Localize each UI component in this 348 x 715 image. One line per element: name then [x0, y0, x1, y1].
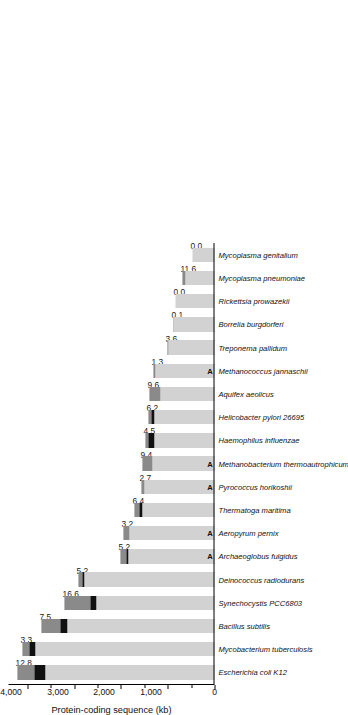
bar-segment-dark-grey	[78, 572, 82, 586]
bar[interactable]	[148, 410, 214, 424]
category-label: Mycoplasma genitalium	[218, 250, 297, 259]
category-label: Treponema pallidum	[218, 343, 287, 352]
axis-tick	[167, 685, 168, 689]
bar-segment-light-grey	[35, 642, 214, 656]
bar-segment-dark-grey	[142, 456, 151, 470]
bar-cell: 9.6	[8, 382, 214, 405]
bar[interactable]	[123, 526, 214, 540]
bar[interactable]	[145, 433, 214, 447]
bar-segment-dark-grey	[149, 387, 159, 401]
bar-segment-dark-grey	[123, 526, 130, 540]
axis-minor-tick	[144, 685, 145, 688]
bar-segment-light-grey	[144, 480, 214, 494]
axis-tick-label: 4,000	[0, 687, 21, 697]
bar[interactable]	[22, 642, 214, 656]
bar-segment-light-grey	[128, 549, 214, 563]
bar-cell: 3.3	[8, 638, 214, 661]
bar[interactable]	[64, 596, 214, 610]
bar-segment-dark-grey	[182, 271, 185, 285]
category-label: Haemophilus influenzae	[218, 436, 299, 445]
bar-cell: 2.7	[8, 475, 214, 498]
bar[interactable]	[167, 340, 214, 354]
bar-segment-light-grey	[192, 248, 214, 262]
axis-minor-tick	[191, 685, 192, 688]
bar-segment-light-grey	[84, 572, 214, 586]
bar-segment-light-grey	[185, 271, 214, 285]
bar-cell: 3.6	[8, 336, 214, 359]
bar-cell: 3.2	[8, 522, 214, 545]
bar-segment-light-grey	[129, 526, 214, 540]
bar-cell: 9.4	[8, 452, 214, 475]
category-label: Methanococcus jannaschii	[218, 366, 307, 375]
category-label: Deinococcus radiodurans	[218, 575, 304, 584]
archaea-marker: A	[207, 366, 212, 375]
axis-tick	[120, 685, 121, 689]
bar-segment-light-grey	[142, 503, 214, 517]
bar-segment-black	[90, 596, 96, 610]
axis-tick-label: 1,000	[140, 687, 162, 697]
bar[interactable]	[173, 317, 214, 331]
bar[interactable]	[78, 572, 214, 586]
bar-segment-black	[60, 619, 67, 633]
bar-segment-black	[148, 433, 154, 447]
bar-segment-dark-grey	[22, 642, 29, 656]
bar[interactable]	[141, 480, 214, 494]
bar-cell: 0.0	[8, 290, 214, 313]
bar-cell: 4.5	[8, 429, 214, 452]
bar-segment-light-grey	[168, 340, 214, 354]
bar[interactable]	[142, 456, 214, 470]
rotated-chart-canvas: 12.83.37.516.65.25.23.26.42.79.44.56.29.…	[0, 0, 277, 714]
archaea-marker: A	[207, 529, 212, 538]
bar-segment-dark-grey	[145, 433, 148, 447]
bar[interactable]	[175, 294, 214, 308]
bar-cell: 6.2	[8, 406, 214, 429]
bar[interactable]	[192, 248, 214, 262]
bar-segment-black	[29, 642, 35, 656]
bar[interactable]	[182, 271, 214, 285]
bar-segment-light-grey	[67, 619, 214, 633]
bar[interactable]	[134, 503, 214, 517]
category-label: Mycoplasma pneumoniae	[218, 273, 305, 282]
bar-cell: 6.4	[8, 498, 214, 521]
bar-cell: 7.5	[8, 614, 214, 637]
category-label: Mycobacterium tuberculosis	[218, 645, 312, 654]
bar-segment-light-grey	[45, 665, 214, 679]
bar[interactable]	[149, 387, 214, 401]
category-label: Pyrococcus horikoshii	[218, 482, 291, 491]
category-label: Borrelia burgdorferi	[218, 320, 283, 329]
archaea-marker: A	[207, 482, 212, 491]
bar-segment-light-grey	[175, 294, 214, 308]
bar-segment-light-grey	[160, 387, 214, 401]
bar-segment-dark-grey	[120, 549, 126, 563]
value-axis: 01,0002,0003,0004,000	[8, 684, 214, 685]
bar-cell: 1.3	[8, 359, 214, 382]
bar-cell: 16.6	[8, 591, 214, 614]
axis-tick	[27, 685, 28, 689]
bar-segment-dark-grey	[17, 665, 33, 679]
category-label: Rickettsia prowazekii	[218, 297, 289, 306]
plot-area: 12.83.37.516.65.25.23.26.42.79.44.56.29.…	[8, 243, 214, 684]
bar-segment-light-grey	[154, 433, 214, 447]
category-label: Bacillus subtilis	[218, 622, 270, 631]
category-label: Synechocystis PCC6803	[218, 598, 302, 607]
bar[interactable]	[41, 619, 214, 633]
bar[interactable]	[120, 549, 214, 563]
bar-cell: 5.2	[8, 545, 214, 568]
bar-cell: 12.8	[8, 661, 214, 684]
axis-minor-tick	[50, 685, 51, 688]
category-label: Archaeoglobus fulgidus	[218, 552, 297, 561]
category-axis-line	[213, 243, 214, 684]
category-label: Helicobacter pylori 26695	[218, 413, 304, 422]
bar[interactable]	[17, 665, 214, 679]
figure-root: 12.83.37.516.65.25.23.26.42.79.44.56.29.…	[0, 0, 277, 714]
axis-tick-label: 2,000	[93, 687, 115, 697]
bar-segment-dark-grey	[64, 596, 90, 610]
bar-cell: 11.6	[8, 266, 214, 289]
bar-segment-dark-grey	[41, 619, 60, 633]
bar-cell: 5.2	[8, 568, 214, 591]
category-label: Escherichia coli K12	[218, 668, 286, 677]
bar-segment-light-grey	[96, 596, 214, 610]
bar-segment-dark-grey	[134, 503, 139, 517]
archaea-marker: A	[207, 552, 212, 561]
bar[interactable]	[153, 364, 214, 378]
